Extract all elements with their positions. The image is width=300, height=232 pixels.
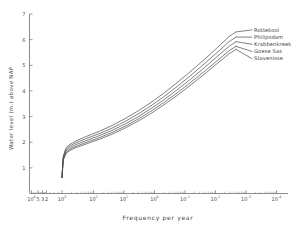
chart-legend: RottekooiPhilipsdamKrabbenkreekGoese Sas… (236, 27, 291, 62)
x-tick-label: 5 (36, 196, 39, 202)
y-axis-title-text: Water level (m.) above NAP (8, 66, 14, 150)
x-tick-label: 104 (27, 195, 36, 201)
y-tick-label: 2 (22, 139, 25, 145)
x-axis-major-ticks (32, 190, 277, 193)
x-tick-label: 103 (58, 195, 67, 201)
series-line (62, 49, 236, 177)
series-line (62, 32, 236, 178)
x-tick-label: 100 (150, 195, 159, 201)
series-line (62, 42, 236, 178)
x-tick-label: 10-4 (272, 195, 282, 201)
y-tick-label: 7 (22, 11, 25, 17)
series-line (62, 46, 236, 177)
legend-entry-label: Goese Sas (254, 48, 282, 54)
x-tick-label: 2 (45, 196, 48, 202)
legend-entry-label: Rottekooi (254, 27, 279, 33)
y-tick-label: 6 (22, 37, 25, 43)
x-axis-title: Frequency per year (123, 214, 194, 222)
legend-entry-label: Philipsdam (254, 34, 283, 41)
legend-entry-label: Stavenisse (254, 55, 283, 61)
x-tick-label: 3 (41, 196, 44, 202)
x-tick-label: 101 (120, 195, 129, 201)
x-tick-label: 10-3 (241, 195, 251, 201)
data-series-group (62, 32, 236, 178)
legend-entry-label: Krabbenkreek (254, 41, 291, 47)
chart-canvas: 1234567 10453210310210110010-110-210-310… (0, 0, 300, 232)
series-line (62, 37, 236, 178)
x-axis-tick-labels: 10453210310210110010-110-210-310-4 (27, 195, 281, 201)
y-tick-label: 5 (22, 62, 25, 68)
x-tick-label: 10-2 (211, 195, 221, 201)
y-axis-ticks (30, 14, 33, 168)
y-tick-label: 4 (22, 88, 25, 94)
y-tick-label: 1 (22, 165, 25, 171)
y-tick-label: 3 (22, 114, 25, 120)
y-axis-tick-labels: 1234567 (22, 11, 25, 171)
y-axis-title: Water level (m.) above NAP (8, 66, 14, 150)
x-tick-label: 102 (89, 195, 98, 201)
x-tick-label: 10-1 (180, 195, 190, 201)
chart-figure: 1234567 10453210310210110010-110-210-310… (0, 0, 300, 232)
